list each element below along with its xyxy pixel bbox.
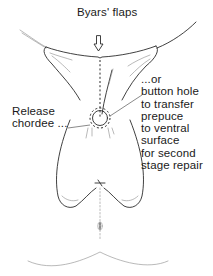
left-flap-shading	[50, 53, 72, 60]
scrotum-left-shading	[62, 196, 78, 201]
right-stay-suture	[157, 22, 196, 48]
left-flap-wing	[44, 47, 80, 100]
label-release-chordee: Release chordee ...	[12, 105, 67, 130]
leader-right	[110, 95, 142, 116]
button-hole-inner	[93, 111, 108, 126]
leader-left	[68, 125, 90, 128]
label-byars-flaps: Byars' flaps	[77, 6, 137, 18]
buttock-curve	[28, 252, 168, 266]
scrotum-right-shading	[122, 196, 138, 201]
base-shading	[86, 128, 114, 138]
scrotum-left-side	[57, 120, 97, 207]
down-arrow	[94, 36, 103, 51]
meatus-mark	[95, 180, 105, 186]
left-stay-suture	[20, 30, 46, 47]
scrotum-right-side	[104, 120, 144, 207]
right-flap-shading	[128, 55, 150, 66]
label-button-hole: ...or button hole to transfer prepuce to…	[141, 73, 203, 171]
glans-line-2	[109, 69, 113, 84]
left-stay-suture-2	[22, 33, 46, 48]
glans-line	[102, 70, 112, 114]
